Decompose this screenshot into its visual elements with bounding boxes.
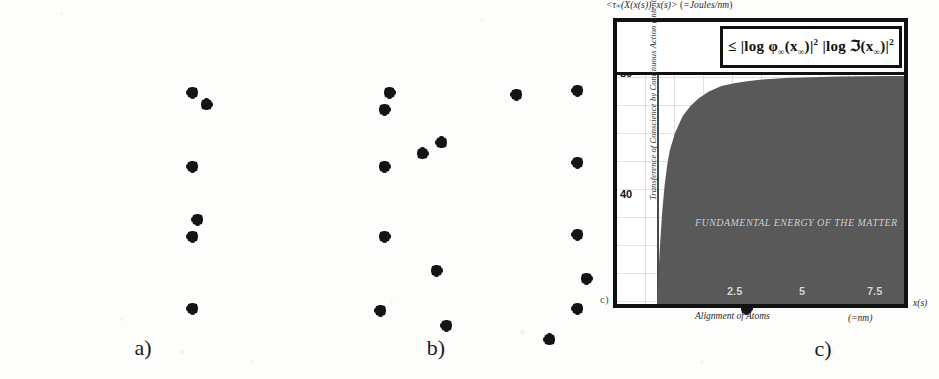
data-point xyxy=(380,105,389,114)
panel-a-caption: a) xyxy=(113,335,173,361)
paper-speck xyxy=(520,330,525,335)
data-point xyxy=(193,215,202,224)
paper-speck xyxy=(60,12,63,15)
data-point xyxy=(573,230,582,239)
paper-speck xyxy=(700,360,704,364)
chart-x-axis-label: Alignment of Atoms xyxy=(695,311,770,321)
paper-speck xyxy=(120,318,123,321)
data-point xyxy=(380,232,389,241)
paper-speck xyxy=(180,350,184,354)
chart-vertical-axis-label: Transference of Conscience by Continuous… xyxy=(648,0,658,200)
chart-area-fill xyxy=(657,76,904,304)
data-point xyxy=(380,162,389,171)
data-point xyxy=(573,86,582,95)
chart-ytick-40: 40 xyxy=(620,188,632,200)
chart-plot-area: FUNDAMENTAL ENERGY OF THE MATTER 80 40 2… xyxy=(617,22,904,304)
chart-formula-banner: ≤ |log φ∞(x∞)|2 |log ℑ(x∞)|2 xyxy=(617,22,904,75)
panel-c-caption: c) xyxy=(793,336,853,362)
paper-speck xyxy=(900,30,903,33)
chart-area-path xyxy=(657,76,904,304)
paper-speck xyxy=(480,18,483,21)
data-point xyxy=(418,149,427,158)
data-point xyxy=(432,266,441,275)
chart-xtick-7-5: 7.5 xyxy=(867,285,882,297)
data-point xyxy=(573,158,582,167)
data-point xyxy=(512,90,521,99)
data-point xyxy=(573,304,582,313)
paper-speck xyxy=(250,360,253,363)
chart-y-axis-title: <τ∞(X(x(s)), x(s)> (=Joules/nm) xyxy=(606,0,733,10)
data-point xyxy=(442,321,451,330)
data-point xyxy=(582,274,591,283)
panel-c-inline-marker: c) xyxy=(600,293,609,305)
data-point xyxy=(188,304,197,313)
paper-speck xyxy=(390,300,393,303)
paper-speck xyxy=(830,350,834,354)
chart-x-axis-variable: x(s) xyxy=(913,298,927,308)
panel-b-caption: b) xyxy=(406,335,466,361)
panel-a-plot-box xyxy=(0,0,257,275)
figure-three-panels: a) b) <τ∞(X(x(s)), x(s)> (=Joules/nm) c)… xyxy=(0,0,939,379)
chart-x-axis-unit: (=nm) xyxy=(848,313,872,323)
data-point xyxy=(188,232,197,241)
chart-formula-text: ≤ |log φ∞(x∞)|2 |log ℑ(x∞)|2 xyxy=(728,37,894,57)
panel-b-plot-box xyxy=(0,275,262,379)
chart-xtick-5: 5 xyxy=(799,285,805,297)
chart-xtick-2-5: 2.5 xyxy=(727,285,742,297)
panel-c-chart: <τ∞(X(x(s)), x(s)> (=Joules/nm) c) FUNDA… xyxy=(600,0,939,379)
data-point xyxy=(545,335,554,344)
data-point xyxy=(437,138,446,147)
data-point xyxy=(376,306,385,315)
data-point xyxy=(188,162,197,171)
chart-formula-box: ≤ |log φ∞(x∞)|2 |log ℑ(x∞)|2 xyxy=(720,26,902,68)
data-point xyxy=(188,88,197,97)
chart-region-label: FUNDAMENTAL ENERGY OF THE MATTER xyxy=(695,217,898,228)
data-point xyxy=(202,100,211,109)
data-point xyxy=(385,88,394,97)
